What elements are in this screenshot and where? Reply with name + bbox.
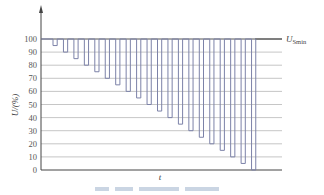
y-tick-label: 40 <box>29 113 38 123</box>
y-axis-arrow-icon <box>39 5 43 13</box>
y-tick-label: 50 <box>29 100 38 110</box>
y-tick-label: 100 <box>24 34 37 44</box>
y-tick-label: 20 <box>29 139 38 149</box>
y-tick-label: 0 <box>33 165 37 175</box>
y-tick-label: 60 <box>29 86 38 96</box>
y-tick-label: 80 <box>29 60 38 70</box>
dip-chart: 0102030405060708090100 U/(%) t USmin <box>0 0 324 195</box>
y-tick-label: 70 <box>29 73 38 83</box>
y-tick-labels: 0102030405060708090100 <box>24 34 37 175</box>
y-tick-label: 10 <box>29 152 38 162</box>
x-axis-label: t <box>159 172 162 182</box>
y-tick-label: 30 <box>29 126 38 136</box>
axes <box>39 5 43 170</box>
y-axis-label: U/(%) <box>10 94 20 117</box>
reference-label: USmin <box>286 34 307 45</box>
figure-caption-partial <box>95 186 225 191</box>
y-tick-label: 90 <box>29 47 38 57</box>
